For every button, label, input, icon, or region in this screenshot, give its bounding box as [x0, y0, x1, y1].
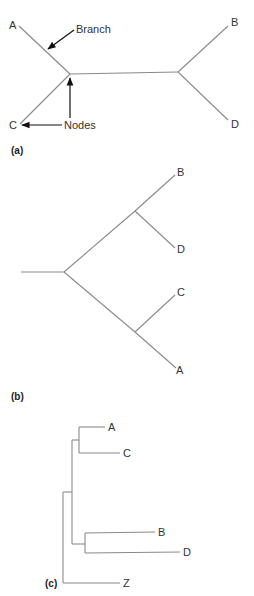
branch-annotation: Branch — [76, 23, 111, 35]
branch-b — [135, 175, 175, 211]
taxon-label-a: A — [9, 19, 17, 31]
branch-bd-clade — [64, 211, 135, 272]
branch-b — [85, 532, 155, 533]
nodes-annotation: Nodes — [64, 119, 96, 131]
branch-d — [135, 211, 175, 248]
taxon-label-b: B — [177, 166, 184, 178]
branch-arrow-icon — [48, 30, 74, 49]
panel-a: A C B D Branch Nodes (a) — [9, 16, 239, 156]
panel-label-a: (a) — [11, 145, 23, 156]
panel-label-c: (c) — [45, 578, 57, 589]
taxon-label-d: D — [177, 243, 185, 255]
taxon-label-b: B — [231, 16, 238, 28]
branch-a — [19, 26, 70, 74]
phylogenetic-trees-figure: A C B D Branch Nodes (a) B D C A (b) — [0, 0, 254, 596]
taxon-label-c: C — [177, 286, 185, 298]
taxon-label-c: C — [123, 447, 131, 459]
branch-ac-clade — [64, 272, 135, 332]
taxon-label-z: Z — [123, 577, 130, 589]
taxon-label-a: A — [176, 364, 184, 376]
taxon-label-d: D — [231, 118, 239, 130]
taxon-label-c: C — [9, 119, 17, 131]
branch-c — [20, 74, 70, 124]
branch-b — [178, 26, 228, 72]
taxon-label-d: D — [183, 546, 191, 558]
branch-c — [135, 295, 175, 332]
panel-label-b: (b) — [11, 391, 24, 402]
branch-d — [178, 72, 228, 120]
branch-d — [85, 552, 180, 553]
internal-branch — [70, 72, 178, 74]
branch-a — [135, 332, 176, 368]
taxon-label-a: A — [108, 421, 116, 433]
panel-b: B D C A (b) — [11, 166, 185, 402]
taxon-label-b: B — [158, 526, 165, 538]
panel-c: A C B D Z (c) — [45, 421, 191, 589]
